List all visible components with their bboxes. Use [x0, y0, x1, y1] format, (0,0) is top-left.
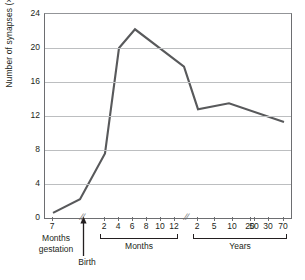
x-axis-tick-label: 2 [195, 222, 200, 231]
birth-arrow-icon [79, 216, 88, 256]
x-axis-group-label-line: gestation [39, 244, 74, 255]
y-axis-tick-label: 16 [24, 77, 40, 86]
x-axis-tick-label: 10 [155, 222, 164, 231]
x-axis-group-bracket [100, 234, 178, 239]
y-axis-tick-label: 24 [24, 9, 40, 18]
x-axis-tick-label: 10 [227, 222, 236, 231]
gridline [45, 116, 291, 117]
y-axis-title-text: Number of synapses (×10 [4, 0, 14, 88]
x-axis-tick-label: 12 [169, 222, 178, 231]
x-axis-group-label: Months [125, 241, 153, 252]
x-axis-tick-label: 50 [249, 222, 258, 231]
x-axis-tick-label: 6 [130, 222, 135, 231]
x-axis-tick-label: 30 [263, 222, 272, 231]
plot-area [44, 13, 292, 219]
y-axis-tick-label: 8 [24, 145, 40, 154]
gridline [45, 82, 291, 83]
birth-annotation-label: Birth [78, 257, 95, 267]
gridline [45, 150, 291, 151]
gridline [45, 48, 291, 49]
x-axis-tick-label: 70 [278, 222, 287, 231]
y-axis-tick-label: 12 [24, 111, 40, 120]
x-axis-tick-label: 5 [212, 222, 217, 231]
y-axis-tick-label: 4 [24, 179, 40, 188]
y-axis-tick-label: 20 [24, 43, 40, 52]
synapse-density-chart-figure: Number of synapses (×1011) 04812162024 B… [0, 0, 305, 280]
x-axis-tick-label: 7 [50, 222, 55, 231]
x-axis-tick-label: 4 [116, 222, 121, 231]
x-axis-group-label: Monthsgestation [39, 233, 74, 254]
y-axis-tick-label: 0 [24, 213, 40, 222]
y-axis-tick-labels: 04812162024 [22, 0, 40, 280]
x-axis-group-bracket [193, 234, 287, 239]
gridline [45, 184, 291, 185]
x-axis-tick-label: 8 [144, 222, 149, 231]
x-axis: Birth 7Monthsgestation//24681012Months//… [44, 217, 290, 280]
x-axis-group-label-line: Months [39, 233, 74, 244]
x-axis-group-label: Years [229, 241, 250, 252]
synapse-density-line [53, 29, 284, 213]
x-axis-tick-label: 2 [102, 222, 107, 231]
